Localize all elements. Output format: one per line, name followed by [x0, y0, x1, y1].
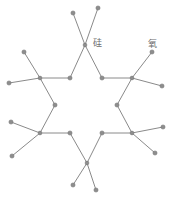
atom-node [53, 103, 57, 107]
bond-line [117, 105, 132, 133]
atom-node [71, 11, 75, 15]
bond-line [70, 45, 85, 78]
atom-node [9, 120, 13, 124]
bond-line [24, 52, 40, 78]
atom-node [160, 84, 164, 88]
bond-line [132, 78, 162, 86]
bond-line [40, 105, 55, 133]
molecular-structure-svg [0, 0, 172, 198]
bond-line [70, 133, 87, 163]
bond-line [40, 78, 55, 105]
structure-diagram-figure: 硅 氧 [0, 0, 172, 198]
atom-node [68, 76, 72, 80]
atom-node-group [7, 6, 165, 192]
bond-line [132, 52, 152, 78]
atom-node [130, 131, 134, 135]
atom-node [100, 131, 104, 135]
atom-node [85, 161, 89, 165]
atom-node [10, 154, 14, 158]
atom-node [38, 131, 42, 135]
atom-node [161, 125, 165, 129]
bond-line [87, 163, 96, 190]
atom-node [115, 103, 119, 107]
bond-line [12, 133, 40, 156]
atom-node [96, 6, 100, 10]
atom-node [71, 183, 75, 187]
atom-node [68, 131, 72, 135]
atom-node [7, 81, 11, 85]
atom-node [22, 50, 26, 54]
bond-line [132, 127, 163, 133]
bond-line [11, 122, 40, 133]
bond-line [132, 133, 155, 153]
atom-node [94, 188, 98, 192]
silicon-label: 硅 [93, 39, 102, 48]
atom-node [130, 76, 134, 80]
bond-line [85, 45, 102, 78]
atom-node [150, 50, 154, 54]
bond-line [73, 163, 87, 185]
atom-node [100, 76, 104, 80]
bond-line [117, 78, 132, 105]
bond-line [9, 78, 40, 83]
atom-node [83, 43, 87, 47]
oxygen-label: 氧 [148, 40, 157, 49]
atom-node [153, 151, 157, 155]
atom-node [38, 76, 42, 80]
bond-line [73, 13, 85, 45]
bond-line [87, 133, 102, 163]
